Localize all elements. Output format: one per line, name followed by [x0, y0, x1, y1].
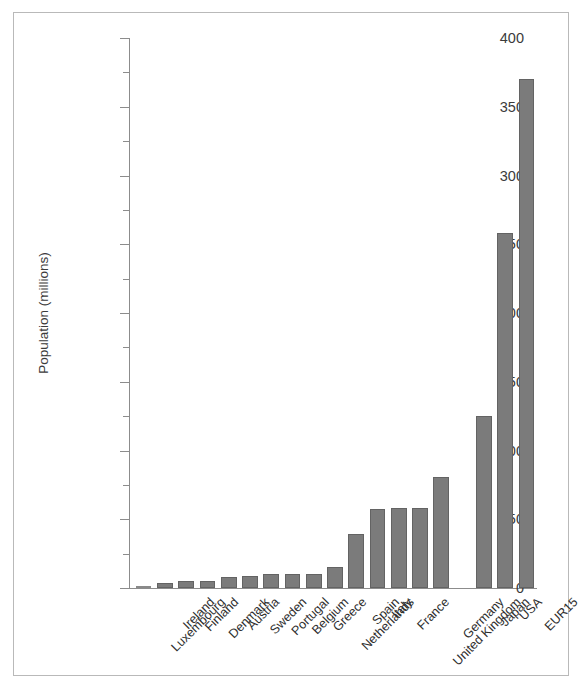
y-tick-major	[120, 519, 129, 520]
bar-luxembourg	[136, 586, 152, 588]
y-tick-major	[120, 451, 129, 452]
bar-italy	[370, 509, 386, 588]
y-tick-minor	[123, 416, 129, 417]
bar-spain	[348, 534, 364, 588]
bar-finland	[178, 581, 194, 588]
y-tick-major	[120, 38, 129, 39]
bar-japan	[476, 416, 492, 588]
bar-portugal	[263, 574, 279, 588]
y-tick-minor	[123, 554, 129, 555]
bar-sweden	[242, 576, 258, 588]
bar-united-kingdom	[412, 508, 428, 588]
y-tick-major	[120, 176, 129, 177]
y-tick-major	[120, 244, 129, 245]
x-tick-label-france: France	[414, 595, 452, 633]
y-tick-major	[120, 313, 129, 314]
y-tick-major	[120, 588, 129, 589]
bar-series	[130, 38, 537, 589]
bar-germany	[433, 477, 449, 588]
bar-france	[391, 508, 407, 588]
y-axis-title: Population (millions)	[36, 252, 51, 374]
bar-austria	[221, 577, 237, 588]
y-tick-major	[120, 107, 129, 108]
figure: Population (millions) 050100150200250300…	[0, 0, 583, 689]
y-tick-minor	[123, 72, 129, 73]
plot-area: Population (millions) 050100150200250300…	[129, 38, 537, 588]
bar-denmark	[200, 581, 216, 588]
x-axis-tick-labels: LuxembourgIrelandFinlandDenmarkAustriaSw…	[129, 589, 549, 689]
bar-netherlands	[327, 567, 343, 588]
bar-ireland	[157, 583, 173, 588]
y-tick-minor	[123, 210, 129, 211]
bar-greece	[306, 574, 322, 588]
y-tick-minor	[123, 347, 129, 348]
bar-belgium	[285, 574, 301, 588]
bar-eur15	[519, 79, 535, 588]
y-tick-minor	[123, 141, 129, 142]
bar-usa	[497, 233, 513, 588]
y-tick-major	[120, 382, 129, 383]
y-tick-minor	[123, 279, 129, 280]
y-tick-minor	[123, 485, 129, 486]
